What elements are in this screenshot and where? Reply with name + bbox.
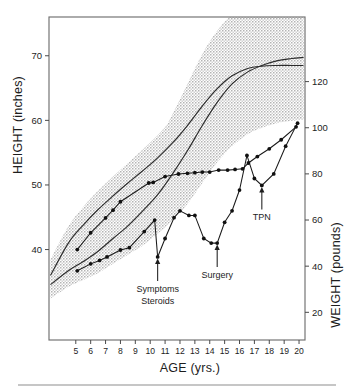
weight-tick-label: 60 (312, 214, 323, 225)
data-point (111, 208, 115, 212)
data-point (193, 214, 197, 218)
data-point (217, 168, 221, 172)
data-point (284, 144, 288, 148)
age-tick-label: 15 (220, 346, 230, 356)
data-point (75, 269, 79, 273)
data-point (163, 175, 167, 179)
data-point (253, 177, 257, 181)
age-tick-label: 12 (175, 346, 185, 356)
data-point (230, 209, 234, 213)
annotation-text: TPN (253, 212, 271, 222)
data-point (193, 171, 197, 175)
data-point (127, 246, 131, 250)
data-point (104, 216, 108, 220)
age-tick-label: 16 (235, 346, 245, 356)
weight-tick-label: 40 (312, 261, 323, 272)
age-tick-label: 17 (250, 346, 260, 356)
age-tick-label: 13 (190, 346, 200, 356)
data-point (294, 125, 298, 129)
data-point (119, 248, 123, 252)
data-point (241, 167, 245, 171)
data-point (89, 231, 93, 235)
data-point (151, 180, 155, 184)
data-point (89, 262, 93, 266)
age-tick-label: 11 (161, 346, 170, 356)
height-tick-label: 70 (31, 50, 42, 61)
age-tick-label: 7 (103, 346, 108, 356)
data-point (105, 255, 109, 259)
data-point (200, 170, 204, 174)
data-point (172, 216, 176, 220)
weight-tick-label: 120 (312, 76, 328, 87)
age-tick-label: 14 (205, 346, 215, 356)
data-point (272, 172, 276, 176)
age-tick-label: 20 (294, 346, 304, 356)
data-point (233, 168, 237, 172)
growth-chart-svg: 40506070 20406080100120 5678910111213141… (0, 0, 354, 389)
data-point (98, 259, 102, 263)
data-point (178, 209, 182, 213)
data-point (156, 255, 160, 259)
age-tick-label: 6 (88, 346, 93, 356)
age-tick-label: 9 (133, 346, 138, 356)
growth-chart-figure: 40506070 20406080100120 5678910111213141… (0, 0, 354, 389)
age-tick-label: 5 (73, 346, 78, 356)
data-point (119, 200, 123, 204)
data-point (202, 237, 206, 241)
data-point (260, 184, 264, 188)
age-tick-label: 10 (145, 346, 155, 356)
data-point (147, 181, 151, 185)
weight-axis-label: WEIGHT (pounds) (329, 222, 343, 328)
annotation-text: Symptoms (136, 284, 179, 294)
height-tick-label: 60 (31, 115, 42, 126)
data-point (163, 237, 167, 241)
data-point (296, 121, 300, 125)
weight-tick-label: 100 (312, 122, 328, 133)
data-point (153, 218, 157, 222)
data-point (142, 230, 146, 234)
data-point (267, 147, 271, 151)
annotation-text: Surgery (201, 270, 233, 280)
data-point (238, 188, 242, 192)
data-point (223, 220, 227, 224)
data-point (245, 154, 249, 158)
data-point (279, 138, 283, 142)
age-axis-label: AGE (yrs.) (160, 361, 220, 375)
data-point (247, 161, 251, 165)
data-point (209, 241, 213, 245)
data-point (177, 172, 181, 176)
height-tick-label: 40 (31, 244, 42, 255)
data-point (208, 170, 212, 174)
data-point (226, 168, 230, 172)
data-point (186, 171, 190, 175)
weight-tick-label: 80 (312, 168, 323, 179)
data-point (187, 214, 191, 218)
age-tick-label: 18 (264, 346, 274, 356)
data-point (255, 155, 259, 159)
height-axis-label: HEIGHT (inches) (11, 76, 25, 174)
height-tick-label: 50 (31, 179, 42, 190)
annotation-text: Steroids (141, 296, 175, 306)
age-tick-label: 8 (118, 346, 123, 356)
data-point (75, 248, 79, 252)
age-tick-label: 19 (279, 346, 289, 356)
data-point (215, 241, 219, 245)
weight-tick-label: 20 (312, 307, 323, 318)
